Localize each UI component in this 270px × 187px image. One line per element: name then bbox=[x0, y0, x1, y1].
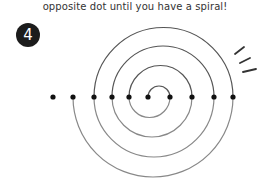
spiral-arc-top-3 bbox=[112, 46, 214, 97]
spiral-arc-bottom-3 bbox=[94, 97, 214, 157]
spiral-arc-top-2 bbox=[129, 66, 192, 97]
dot bbox=[211, 94, 216, 99]
dot-row bbox=[50, 94, 235, 99]
dot bbox=[109, 94, 114, 99]
dot bbox=[91, 94, 96, 99]
dot bbox=[50, 94, 55, 99]
spiral-diagram bbox=[0, 0, 270, 187]
dot bbox=[167, 94, 172, 99]
dot bbox=[70, 94, 75, 99]
dot bbox=[126, 94, 131, 99]
spiral-arc-top-1 bbox=[148, 86, 170, 97]
dot bbox=[145, 94, 150, 99]
spiral-arc-bottom-1 bbox=[129, 97, 170, 117]
dot bbox=[230, 94, 235, 99]
dot bbox=[189, 94, 194, 99]
emphasis-marks-icon bbox=[235, 47, 256, 72]
